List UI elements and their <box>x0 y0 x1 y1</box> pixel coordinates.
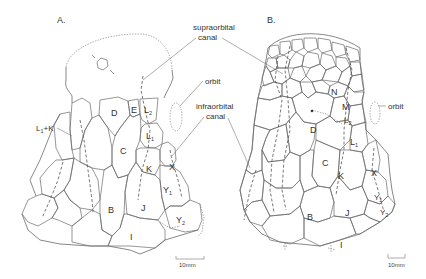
supraorbital-leader-a <box>143 38 196 80</box>
plate-x-label-b: X <box>371 168 377 178</box>
plate-b-label-b: B <box>307 212 313 222</box>
plate-d-label-b: D <box>310 125 317 135</box>
plate-y2-label-a: Y2 <box>176 215 185 226</box>
svg-text:10mm: 10mm <box>179 262 196 268</box>
panel-a-sensory-canal-1 <box>80 120 93 212</box>
plate-k-label-b: K <box>338 171 344 181</box>
plate-e-label-a: E <box>131 105 137 115</box>
panel-b-canal-far-left <box>244 170 256 220</box>
plate-d-label-a: D <box>111 108 118 118</box>
infraorbital-canal-label: canal <box>206 112 225 121</box>
plate-j-label-a: J <box>141 203 146 213</box>
plate-c-label-a: C <box>120 146 127 156</box>
panel-a-label: A. <box>57 15 66 25</box>
pineal-mark <box>92 55 114 74</box>
plate-m-label-b: M <box>342 102 350 112</box>
plate-i-label-b: I <box>340 240 343 250</box>
panel-a-orbit <box>170 103 182 131</box>
plate-l1k-label-a: L1+K <box>36 124 54 134</box>
panel-b-outline <box>240 34 395 246</box>
panel-b-canal-left-outer <box>270 56 282 212</box>
svg-text:10mm: 10mm <box>388 262 405 268</box>
supraorbital-canal-label: canal <box>198 33 217 42</box>
plate-k-label-a: K <box>146 164 152 174</box>
plate-l1-label-b: L1 <box>350 137 358 148</box>
pineal-dot <box>311 110 314 113</box>
panel-b-orbit <box>370 102 380 124</box>
skull-roof-diagram: A. <box>0 0 426 279</box>
infraorbital-leader-b <box>228 118 250 168</box>
supraorbital-label: supraorbital <box>193 23 235 32</box>
plate-y1-label-a: Y1 <box>163 185 172 196</box>
orbit-label-b: orbit <box>388 102 404 111</box>
infraorbital-label: infraorbital <box>196 102 234 111</box>
infraorbital-leader-a <box>172 117 204 156</box>
plate-l2-label-b: L2 <box>344 116 352 126</box>
plate-y1-label-b: Y1 <box>374 193 382 203</box>
panel-a-cranium-outline <box>66 34 172 70</box>
orbit-label-a: orbit <box>205 77 221 86</box>
plate-j-label-b: J <box>345 208 350 218</box>
plate-l1-label-a: L1 <box>146 131 154 142</box>
annotations: supraorbital canal orbit infraorbital ca… <box>143 23 283 168</box>
panel-a-sensory-canal-2 <box>42 162 63 218</box>
plate-l2-label-a: L2 <box>144 105 152 116</box>
plate-i-label-a: I <box>130 232 133 242</box>
panel-b: B. <box>240 15 405 268</box>
panel-a-scale-bar: 10mm <box>176 256 204 268</box>
plate-n-label-b: N <box>331 87 338 97</box>
plate-x-label-a: X <box>169 162 175 172</box>
plate-c-label-b: C <box>322 158 329 168</box>
panel-b-scale-bar: 10mm <box>388 254 405 268</box>
plate-b-label-a: B <box>108 205 114 215</box>
panel-b-label: B. <box>267 15 276 25</box>
plate-y2-label-b: Y2 <box>380 208 388 218</box>
